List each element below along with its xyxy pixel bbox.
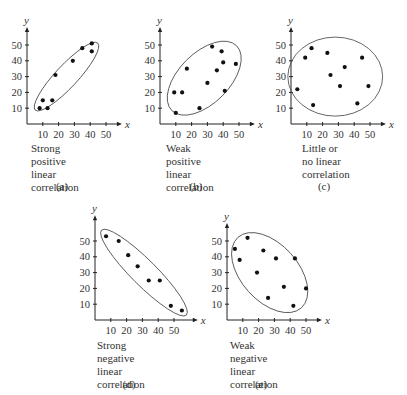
y-axis-label: y <box>223 210 229 222</box>
y-tick-label: 30 <box>212 267 223 278</box>
x-tick-label: 50 <box>301 325 312 336</box>
x-axis-arrow-icon <box>317 318 322 322</box>
data-point <box>274 256 278 260</box>
data-point <box>266 296 270 300</box>
y-tick-label: 20 <box>212 283 223 294</box>
data-point <box>233 247 237 251</box>
x-tick-label: 20 <box>253 325 264 336</box>
x-tick-label: 30 <box>269 325 280 336</box>
data-point <box>304 286 308 290</box>
data-point <box>291 304 295 308</box>
panel-label-e: (e) <box>246 378 276 390</box>
y-tick-label: 40 <box>212 251 223 262</box>
y-axis-arrow-icon <box>225 223 229 228</box>
data-point <box>245 236 249 240</box>
x-axis-label: x <box>324 314 330 326</box>
data-point <box>282 285 286 289</box>
caption-line: Weak negative linear <box>230 339 278 378</box>
data-point <box>238 258 242 262</box>
y-tick-label: 50 <box>212 236 223 247</box>
data-point <box>293 256 297 260</box>
y-tick-label: 10 <box>212 299 223 310</box>
cluster-ellipse <box>217 218 323 327</box>
data-point <box>261 248 265 252</box>
x-tick-label: 10 <box>238 325 249 336</box>
scatter-plot-e: xy10203040501020304050 <box>0 0 407 395</box>
x-tick-label: 40 <box>285 325 296 336</box>
data-point <box>255 271 259 275</box>
